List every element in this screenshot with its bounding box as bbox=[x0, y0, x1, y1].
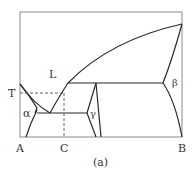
component-b-label: B bbox=[178, 142, 186, 155]
alpha-phase-label: α bbox=[23, 107, 31, 120]
beta-upper-boundary bbox=[163, 24, 182, 83]
figure-caption: (a) bbox=[93, 156, 108, 169]
component-a-label: A bbox=[15, 142, 25, 155]
liquidus-main-curve bbox=[50, 24, 182, 113]
beta-lower-boundary bbox=[163, 83, 182, 137]
liquid-phase-label: L bbox=[49, 68, 57, 81]
gamma-phase-label: γ bbox=[90, 108, 96, 119]
gamma-right-boundary bbox=[96, 83, 101, 137]
composition-c-label: C bbox=[60, 142, 68, 155]
phase-diagram: L α γ β T A C B (a) bbox=[0, 0, 193, 178]
beta-phase-label: β bbox=[172, 77, 178, 88]
temperature-label: T bbox=[8, 87, 16, 100]
